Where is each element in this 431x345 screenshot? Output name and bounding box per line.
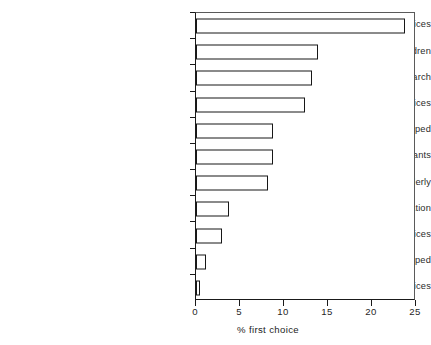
bar-row: [196, 275, 414, 301]
bar-chart-figure: general and acute hospital servicesservi…: [0, 0, 431, 345]
x-axis-tick-label: 10: [277, 307, 288, 317]
bar: [196, 202, 229, 217]
bar: [196, 228, 222, 243]
x-axis-tick-label: 5: [236, 307, 242, 317]
bar-row: [196, 196, 414, 222]
x-axis-tick-label: 15: [321, 307, 332, 317]
bar: [196, 19, 405, 34]
bar: [196, 45, 318, 60]
bar: [196, 280, 200, 295]
bar: [196, 123, 273, 138]
bar-row: [196, 144, 414, 170]
bar: [196, 176, 268, 191]
x-axis-tick-label: 0: [192, 307, 198, 317]
x-axis-title: % first choice: [0, 325, 431, 335]
bar-row: [196, 249, 414, 275]
x-axis-title-text: % first choice: [237, 325, 299, 335]
x-axis-tick-label: 20: [365, 307, 376, 317]
bar: [196, 97, 305, 112]
bar-row: [196, 118, 414, 144]
bar-row: [196, 39, 414, 65]
x-axis-tick-label: 25: [409, 307, 420, 317]
bar: [196, 71, 312, 86]
bar-row: [196, 65, 414, 91]
bar-row: [196, 170, 414, 196]
bar-row: [196, 13, 414, 39]
plot-area: [195, 12, 415, 300]
bar-row: [196, 222, 414, 248]
bar: [196, 254, 206, 269]
bar: [196, 149, 273, 164]
bar-row: [196, 92, 414, 118]
